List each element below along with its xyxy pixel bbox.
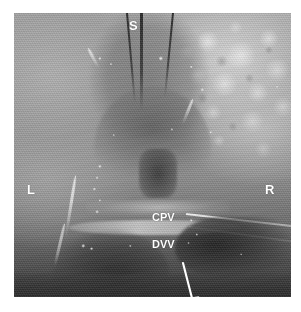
figure-root: S L R CPV DVV bbox=[0, 0, 301, 312]
label-dvv: DVV bbox=[152, 239, 175, 250]
label-right: R bbox=[265, 183, 274, 196]
label-superior: S bbox=[129, 19, 138, 32]
ultrasound-scan-image bbox=[14, 13, 291, 297]
label-cpv: CPV bbox=[152, 212, 175, 223]
label-left: L bbox=[27, 183, 35, 196]
speckle-highlights bbox=[14, 13, 291, 297]
